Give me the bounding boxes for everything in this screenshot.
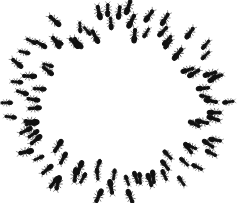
ant-icon	[199, 36, 214, 51]
ant-icon	[15, 146, 34, 159]
ant-icon	[92, 2, 105, 21]
ant-circle-illustration	[0, 0, 241, 203]
ant-icon	[31, 153, 46, 165]
ant-icon	[141, 6, 158, 25]
ant-icon	[177, 155, 192, 170]
ant-icon	[7, 54, 25, 71]
ant-icon	[185, 65, 203, 81]
ant-icon	[103, 1, 112, 17]
ant-icon	[20, 71, 37, 81]
ant-icon	[175, 174, 189, 189]
ant-icon	[0, 99, 13, 107]
ant-icon	[9, 77, 23, 86]
ant-icon	[90, 187, 106, 203]
ant-ring	[0, 0, 237, 203]
ant-icon	[76, 20, 84, 33]
ant-icon	[129, 26, 140, 44]
ant-icon	[44, 11, 63, 30]
ant-icon	[16, 47, 31, 57]
ant-icon	[204, 147, 220, 161]
ant-icon	[196, 83, 213, 94]
ant-icon	[199, 47, 214, 62]
ant-icon	[114, 3, 125, 20]
ant-icon	[3, 112, 18, 121]
ant-icon	[13, 86, 29, 98]
ant-icon	[140, 25, 153, 40]
ant-icon	[105, 179, 118, 198]
ant-icon	[157, 9, 173, 27]
ant-icon	[123, 188, 138, 203]
ant-icon	[122, 174, 133, 189]
ant-icon	[182, 23, 199, 41]
ant-icon	[37, 162, 55, 179]
ant-icon	[55, 150, 70, 168]
ant-icon	[222, 97, 237, 107]
ant-icon	[190, 161, 206, 174]
ant-icon	[31, 84, 47, 94]
ant-icon	[26, 103, 42, 113]
